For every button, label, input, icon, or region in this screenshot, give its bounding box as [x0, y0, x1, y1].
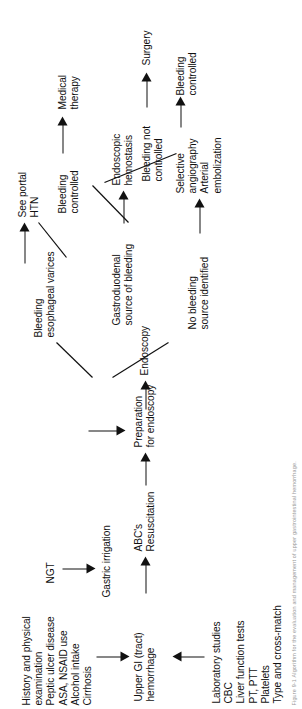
node-surgery: Surgery	[140, 9, 152, 65]
node-abcs-resuscitation: ABC's Resuscitation	[132, 471, 156, 551]
arrow-not-controlled-to-surgery-line	[146, 79, 147, 107]
arrow-preparation-to-endoscopy-line	[145, 387, 146, 409]
node-endoscopy: Endoscopy	[138, 315, 150, 375]
node-upper-gi-hemorrhage: Upper GI (tract) hemorrhage	[132, 597, 156, 701]
arrow-history-to-upper-gi-line	[96, 656, 122, 657]
figure-caption: Figure 9-1 Algorithm for the evaluation …	[290, 461, 297, 705]
node-bleeding-not-controlled-main: Bleeding not controlled	[140, 103, 164, 181]
arrow-bleeding-controlled-to-medical-head	[57, 116, 67, 125]
arrow-abcs-to-preparation-line	[145, 459, 146, 485]
arrow-bleeding-controlled-to-medical-line	[62, 123, 63, 153]
arrow-gastroduodenal-to-hemostasis-head	[118, 190, 128, 199]
arrow-labs-to-upper-gi-head	[172, 651, 181, 661]
arrow-ngt-to-gastric-irrigation-head	[86, 563, 95, 573]
arrow-labs-to-upper-gi-line	[178, 656, 204, 657]
node-bleeding-controlled-top: Bleeding controlled	[56, 151, 80, 213]
node-medical-therapy: Medical therapy	[56, 47, 80, 109]
rotated-figure-frame: History and physical examination Peptic …	[0, 0, 302, 709]
node-ngt: NGT	[44, 543, 56, 583]
arrow-gastric-irrigation-down-head	[116, 425, 125, 435]
arrow-angiography-to-controlled-head	[175, 96, 185, 105]
node-see-portal-htn: See portal HTN	[16, 155, 40, 217]
arrow-varices-right-line	[24, 227, 25, 263]
node-bleeding-esophageal-varices: Bleeding esophageal varices	[32, 233, 56, 337]
arrow-no-source-to-angiography-head	[194, 198, 204, 207]
node-bleeding-controlled-bottom: Bleeding controlled	[174, 29, 198, 95]
arrow-not-controlled-to-surgery-head	[141, 72, 151, 81]
arrow-upper-gi-to-abcs-line	[145, 563, 146, 593]
arrow-abcs-to-preparation-head	[140, 452, 150, 461]
node-no-bleeding-source: No bleeding source identified	[186, 233, 210, 329]
flowchart-canvas: History and physical examination Peptic …	[0, 0, 302, 709]
node-endoscopic-hemostasis: Endoscopic hemostasis	[110, 107, 134, 185]
arrow-gastroduodenal-to-hemostasis-line	[123, 197, 124, 223]
arrow-upper-gi-to-abcs-head	[140, 556, 150, 565]
arrow-varices-right-head	[19, 222, 29, 231]
node-laboratory-studies: Laboratory studies CBC Liver function te…	[210, 571, 283, 703]
arrow-preparation-to-endoscopy-head	[140, 380, 150, 389]
arrow-gastric-irrigation-down-line	[88, 430, 118, 431]
arrow-ngt-to-gastric-irrigation-line	[62, 568, 88, 569]
arrow-angiography-to-controlled-line	[180, 103, 181, 127]
arrow-no-source-to-angiography-line	[199, 205, 200, 233]
node-gastroduodenal-source: Gastroduodenal source of bleeding	[110, 219, 134, 325]
arrow-history-to-upper-gi-head	[120, 651, 129, 661]
node-gastric-irrigation: Gastric irrigation	[100, 501, 112, 597]
node-history-and-physical: History and physical examination Peptic …	[20, 573, 93, 705]
